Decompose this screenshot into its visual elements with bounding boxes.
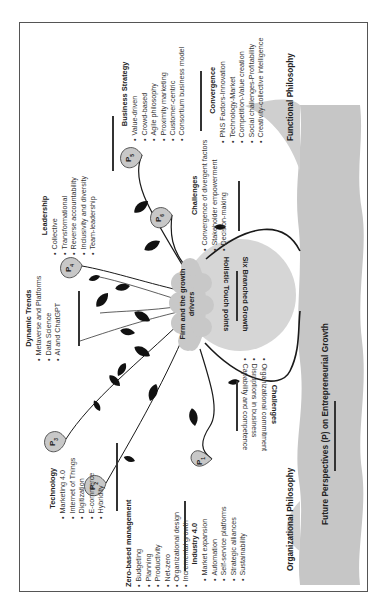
list-item: Customer-centric (168, 47, 177, 141)
block-challenges-organizational: Challenges Organizational commitment Dis… (240, 358, 279, 451)
branch-p3 (66, 321, 182, 439)
leaf-icon (115, 361, 128, 377)
list-item: Capability and competence (240, 358, 249, 451)
foundation-title: Future Perspectives (P) on Entrepreneuri… (320, 323, 330, 525)
list-item: Planning (144, 500, 153, 587)
block-leadership: Leadership Collective Transformational R… (40, 176, 97, 255)
list-item: Digitization (77, 458, 86, 519)
functional-philosophy-label: Functional Philosophy (286, 53, 295, 141)
block-title: Challenges (190, 140, 199, 251)
block-zero-based-management: Zero-based management Budgeting Planning… (124, 500, 191, 587)
p1-label: P1 (195, 457, 206, 465)
list-item: AI and ChatGPT (53, 276, 62, 361)
list-item: Stakeholder empowerment (210, 140, 219, 251)
leaf-icon (93, 290, 111, 309)
list-item: Market expansion (200, 506, 209, 581)
list-item: Organizational commitment (259, 358, 268, 451)
list-item: Strategic alliances (229, 506, 238, 581)
list-item: Data Science (44, 276, 53, 361)
center-node-label: Firm and the growth drivers (178, 265, 196, 343)
list-item: Social challenges-Profitability (247, 38, 256, 143)
divider (236, 381, 238, 431)
list-item: Convergence of divergent factors (200, 140, 209, 251)
leaf-icon (188, 408, 199, 427)
list-item: Transformational (60, 176, 69, 255)
block-business-strategy: Business Strategy Value-driven Crowd-bas… (120, 47, 187, 141)
list-item: Reverse accountability (69, 176, 78, 255)
list-item: Budgeting (134, 500, 143, 587)
leaf-icon (88, 274, 101, 283)
block-challenges-functional: Challenges Convergence of divergent fact… (190, 140, 229, 251)
list-item: Net-zero (163, 500, 172, 587)
list-item: Value-driven (130, 47, 139, 141)
list-item: Proximity marketing (159, 47, 168, 141)
list-item: Technology-Market (228, 38, 237, 143)
p5-label: P5 (124, 154, 135, 162)
block-title: Zero-based management (124, 500, 133, 587)
list-item: Marketing 4.0 (58, 458, 67, 519)
divider (184, 501, 186, 571)
list-item: Automation (210, 506, 219, 581)
block-title: Leadership (40, 176, 49, 255)
hub-divider (236, 271, 238, 321)
foundation-underline (334, 401, 336, 471)
leaf-icon (120, 327, 136, 336)
divider (78, 291, 80, 346)
p4-label: P4 (64, 264, 75, 272)
block-title: Dynamic Trends (24, 276, 33, 361)
list-item: Hybridity (96, 458, 105, 519)
list-item: Consortium business model (177, 47, 186, 141)
list-item: Agile philosophy (149, 47, 158, 141)
p3-label: P3 (48, 438, 59, 446)
hub-label-six-branched: Six Branched Growth (241, 249, 250, 339)
block-title: Industry 4.0 (190, 506, 199, 581)
divider (200, 71, 202, 131)
list-item: Metaverse and Platforms (34, 276, 43, 361)
list-item: Self-service platforms (219, 506, 228, 581)
list-item: Creativity-collective intelligence (256, 38, 265, 143)
divider (116, 443, 118, 511)
divider (238, 181, 240, 231)
list-item: Collective (50, 176, 59, 255)
list-item: PNS Factors-Innovation (218, 38, 227, 143)
branch-trend-1 (80, 311, 182, 341)
diagram-canvas: P1 P2 P3 P4 P5 P6 Firm and the growth dr… (0, 0, 378, 611)
branch-p1 (200, 349, 214, 459)
block-title: Business Strategy (120, 47, 129, 141)
list-item: Disruptions in business (249, 358, 258, 451)
foundation-bar (297, 105, 364, 585)
list-item: Organizational design (172, 500, 181, 587)
block-industry-4: Industry 4.0 Market expansion Automation… (190, 506, 247, 581)
list-item: Decision-making (219, 140, 228, 251)
list-item: Crowd-based (140, 47, 149, 141)
list-item: Productivity (153, 500, 162, 587)
leaf-icon (142, 237, 162, 253)
block-title: Technology (48, 458, 57, 519)
list-item: Team-leadership (88, 176, 97, 255)
leaf-icon (115, 283, 131, 292)
branch-p2 (106, 326, 188, 483)
block-dynamic-trends: Dynamic Trends Metaverse and Platforms D… (24, 276, 63, 361)
list-item: E-commerce (87, 458, 96, 519)
leaf-icon (123, 454, 136, 463)
leaf-icon (107, 373, 122, 388)
leaf-icon (132, 198, 151, 216)
block-title: Convergence (208, 38, 217, 143)
list-item: Competition-Value creation (237, 38, 246, 143)
list-item: Inclusivity and diversity (79, 176, 88, 255)
divider (112, 116, 114, 171)
block-technology: Technology Marketing 4.0 Internet of Thi… (48, 458, 105, 519)
list-item: Internet of Things (68, 458, 77, 519)
block-convergence: Convergence PNS Factors-Innovation Techn… (208, 38, 265, 143)
leaf-icon (228, 378, 241, 385)
block-title: Challenges (269, 358, 278, 451)
organizational-philosophy-label: Organizational Philosophy (286, 468, 295, 571)
p6-label: P6 (154, 214, 165, 222)
list-item: Sustainability (238, 506, 247, 581)
hub-label-touchpoints: Holistic Touch points (222, 249, 231, 339)
